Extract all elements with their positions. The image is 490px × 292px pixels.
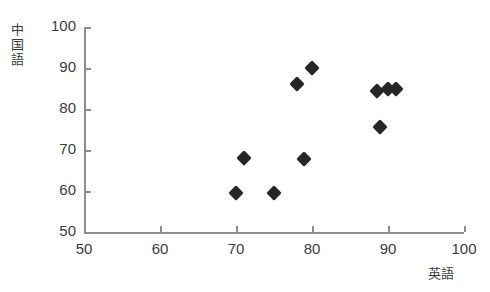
y-tick-label: 100	[34, 18, 76, 34]
x-axis-line	[84, 232, 464, 234]
x-tick-mark	[464, 226, 466, 232]
y-axis-label-char-2: 国	[6, 37, 28, 52]
data-point-marker	[369, 83, 385, 99]
data-point-marker	[388, 81, 404, 97]
x-tick-label: 50	[61, 241, 107, 257]
y-tick-mark	[85, 150, 91, 152]
x-tick-label: 80	[289, 241, 335, 257]
data-point-marker	[373, 120, 389, 136]
y-axis-label-char-1: 中	[6, 22, 28, 37]
data-point-marker	[380, 81, 396, 97]
data-point-marker	[228, 185, 244, 201]
data-point-marker	[297, 151, 313, 167]
x-tick-label: 60	[137, 241, 183, 257]
data-point-marker	[266, 185, 282, 201]
y-axis-label-char-3: 語	[6, 52, 28, 67]
x-tick-mark	[84, 226, 86, 232]
x-tick-mark	[312, 226, 314, 232]
data-point-marker	[289, 77, 305, 93]
y-tick-mark	[85, 109, 91, 111]
y-axis-line	[84, 27, 86, 233]
y-tick-mark	[85, 27, 91, 29]
x-axis-label: 英語	[428, 266, 454, 281]
x-tick-mark	[236, 226, 238, 232]
y-tick-label: 80	[34, 100, 76, 116]
x-tick-label: 90	[365, 241, 411, 257]
y-tick-label: 70	[34, 141, 76, 157]
y-axis-label: 中 国 語	[6, 22, 28, 67]
x-tick-label: 100	[441, 241, 487, 257]
x-tick-mark	[160, 226, 162, 232]
y-tick-label: 90	[34, 59, 76, 75]
y-tick-label: 50	[34, 223, 76, 239]
y-tick-mark	[85, 191, 91, 193]
scatter-plot-figure: ・・・・・・・・・・・・・・・・・・・・・・・・・・・・ 中 国 語 英語 50…	[0, 0, 490, 292]
x-tick-mark	[388, 226, 390, 232]
y-tick-mark	[85, 232, 91, 234]
cut-off-header-text: ・・・・・・・・・・・・・・・・・・・・・・・・・・・・	[6, 0, 476, 3]
data-point-marker	[236, 150, 252, 166]
x-tick-label: 70	[213, 241, 259, 257]
data-point-marker	[304, 60, 320, 76]
y-tick-mark	[85, 68, 91, 70]
y-tick-label: 60	[34, 182, 76, 198]
